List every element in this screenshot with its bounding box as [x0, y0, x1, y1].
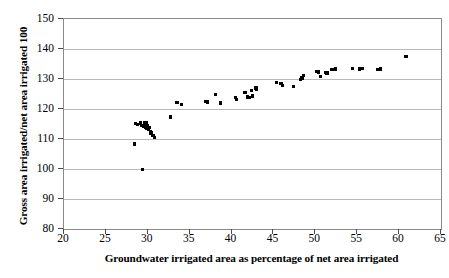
- data-point: [250, 89, 253, 92]
- data-point: [404, 55, 407, 58]
- y-tick-label-130: 130: [18, 72, 54, 84]
- data-point: [281, 84, 284, 87]
- y-tick-label-140: 140: [18, 42, 54, 54]
- y-tick-label-100: 100: [18, 162, 54, 174]
- data-point: [255, 88, 258, 91]
- data-point: [379, 67, 382, 70]
- data-point: [235, 98, 238, 101]
- data-point: [219, 101, 222, 104]
- x-axis-title: Groundwater irrigated area as percentage…: [63, 252, 440, 264]
- y-tick-mark-90: [58, 198, 63, 199]
- data-point: [351, 67, 354, 70]
- y-tick-mark-100: [58, 168, 63, 169]
- x-tick-label-50: 50: [299, 232, 329, 245]
- gridline-y-110: [64, 139, 441, 140]
- data-point: [206, 100, 209, 103]
- y-tick-label-110: 110: [18, 132, 54, 144]
- data-point: [243, 91, 246, 94]
- y-tick-label-150: 150: [18, 12, 54, 24]
- x-tick-label-65: 65: [425, 232, 449, 245]
- data-point: [251, 94, 254, 97]
- x-tick-label-40: 40: [216, 232, 246, 245]
- data-point: [302, 74, 305, 77]
- plot-area: [63, 18, 442, 230]
- data-point: [334, 67, 337, 70]
- data-point: [133, 142, 136, 145]
- data-point: [319, 75, 322, 78]
- data-point: [141, 168, 144, 171]
- y-tick-mark-120: [58, 108, 63, 109]
- gridline-y-100: [64, 169, 441, 170]
- y-tick-label-120: 120: [18, 102, 54, 114]
- gridline-y-90: [64, 199, 441, 200]
- y-tick-mark-130: [58, 78, 63, 79]
- data-point: [169, 115, 172, 118]
- x-tick-label-25: 25: [90, 232, 120, 245]
- x-tick-label-45: 45: [257, 232, 287, 245]
- data-point: [214, 93, 217, 96]
- data-point: [361, 67, 364, 70]
- x-tick-label-20: 20: [48, 232, 78, 245]
- gridline-y-130: [64, 79, 441, 80]
- y-tick-mark-140: [58, 48, 63, 49]
- x-tick-label-55: 55: [341, 232, 371, 245]
- x-tick-label-35: 35: [174, 232, 204, 245]
- y-tick-mark-110: [58, 138, 63, 139]
- scatter-chart-figure: Gross area irrigated/net area irrigated …: [0, 0, 449, 278]
- data-point: [292, 85, 295, 88]
- gridline-y-140: [64, 49, 441, 50]
- data-point: [175, 101, 178, 104]
- data-point: [317, 70, 320, 73]
- y-tick-label-90: 90: [18, 192, 54, 204]
- y-tick-mark-150: [58, 18, 63, 19]
- data-point: [180, 103, 183, 106]
- x-tick-label-60: 60: [383, 232, 413, 245]
- data-point: [153, 136, 156, 139]
- data-point: [325, 71, 328, 74]
- data-point: [275, 81, 278, 84]
- x-tick-label-30: 30: [132, 232, 162, 245]
- gridline-y-120: [64, 109, 441, 110]
